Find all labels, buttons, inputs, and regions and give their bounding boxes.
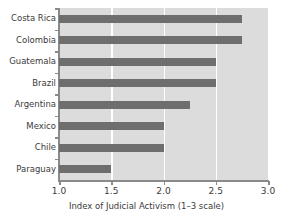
x-tick-label: 2.0 bbox=[156, 186, 170, 196]
gridline bbox=[111, 8, 113, 180]
category-label: Costa Rica bbox=[0, 14, 56, 23]
category-label: Guatemala bbox=[0, 57, 56, 66]
bar bbox=[59, 122, 164, 130]
bar bbox=[59, 15, 242, 23]
y-tick-mark bbox=[55, 8, 58, 10]
y-axis-line bbox=[58, 8, 60, 180]
category-axis-labels: Costa RicaColombiaGuatemalaBrazilArgenti… bbox=[0, 0, 56, 217]
bar bbox=[59, 165, 111, 173]
x-tick-label: 1.5 bbox=[104, 186, 118, 196]
x-tick-label: 1.0 bbox=[52, 186, 66, 196]
y-tick-mark bbox=[55, 30, 58, 32]
category-label: Mexico bbox=[0, 122, 56, 131]
y-tick-mark bbox=[55, 51, 58, 53]
bar-chart: Costa RicaColombiaGuatemalaBrazilArgenti… bbox=[0, 0, 293, 217]
category-label: Argentina bbox=[0, 100, 56, 109]
x-tick-mark bbox=[111, 181, 113, 185]
x-tick-mark bbox=[216, 181, 218, 185]
bar bbox=[59, 58, 216, 66]
bar bbox=[59, 36, 242, 44]
category-label: Colombia bbox=[0, 36, 56, 45]
y-tick-mark bbox=[55, 159, 58, 161]
bar bbox=[59, 79, 216, 87]
gridline bbox=[216, 8, 218, 180]
x-tick-label: 2.5 bbox=[209, 186, 223, 196]
x-tick-mark bbox=[268, 181, 270, 185]
x-axis-title: Index of Judicial Activism (1–3 scale) bbox=[0, 201, 293, 211]
bar bbox=[59, 101, 190, 109]
x-tick-mark bbox=[164, 181, 166, 185]
y-tick-mark bbox=[55, 94, 58, 96]
plot-area bbox=[59, 8, 268, 180]
y-tick-mark bbox=[55, 73, 58, 75]
y-tick-mark bbox=[55, 116, 58, 118]
x-tick-label: 3.0 bbox=[261, 186, 275, 196]
x-tick-mark bbox=[59, 181, 61, 185]
category-label: Paraguay bbox=[0, 165, 56, 174]
y-tick-mark bbox=[55, 137, 58, 139]
gridline bbox=[164, 8, 166, 180]
gridline bbox=[268, 8, 270, 180]
bar bbox=[59, 144, 164, 152]
category-label: Chile bbox=[0, 143, 56, 152]
category-label: Brazil bbox=[0, 79, 56, 88]
